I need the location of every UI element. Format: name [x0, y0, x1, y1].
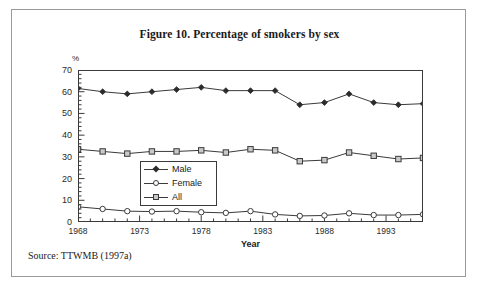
legend-marker [152, 165, 159, 172]
legend-label: Male [172, 164, 192, 174]
legend-item-female: Female [141, 176, 216, 190]
y-axis-tick-label: 30 [50, 152, 72, 162]
x-axis-tick-label: 1978 [192, 226, 211, 236]
x-axis-tick-label: 1988 [315, 226, 334, 236]
y-axis-tick-label: 40 [50, 130, 72, 140]
page-title: Figure 10. Percentage of smokers by sex [12, 28, 467, 40]
x-axis-tick-label: 1983 [253, 226, 272, 236]
chart-legend: MaleFemaleAll [140, 161, 217, 206]
y-axis-tick-label: 20 [50, 174, 72, 184]
x-axis-title: Year [78, 239, 423, 249]
x-axis-tick-label: 1968 [69, 226, 88, 236]
plot-frame [78, 70, 423, 222]
legend-item-all: All [141, 190, 216, 204]
circle-open-icon [144, 177, 168, 189]
y-axis-tick-label: 70 [50, 65, 72, 75]
legend-marker [153, 194, 159, 200]
y-axis-tick-label: 60 [50, 87, 72, 97]
legend-label: All [172, 192, 182, 202]
figure-frame: Figure 10. Percentage of smokers by sex … [11, 9, 466, 277]
square-open-icon [144, 191, 168, 203]
plot-area [78, 70, 423, 222]
diamond-filled-icon [144, 163, 168, 175]
legend-item-male: Male [141, 162, 216, 176]
y-axis-unit-label: % [72, 54, 79, 63]
y-axis-tick-label: 50 [50, 108, 72, 118]
legend-label: Female [172, 178, 202, 188]
source-note: Source: TTWMB (1997a) [28, 250, 132, 261]
x-axis-tick-labels: 196819731978198319881993 [78, 226, 423, 240]
y-axis-tick-label: 10 [50, 195, 72, 205]
y-axis-tick-labels: 706050403020100 [48, 70, 72, 222]
x-axis-tick-label: 1973 [130, 226, 149, 236]
x-axis-tick-label: 1993 [377, 226, 396, 236]
legend-marker [153, 180, 159, 186]
